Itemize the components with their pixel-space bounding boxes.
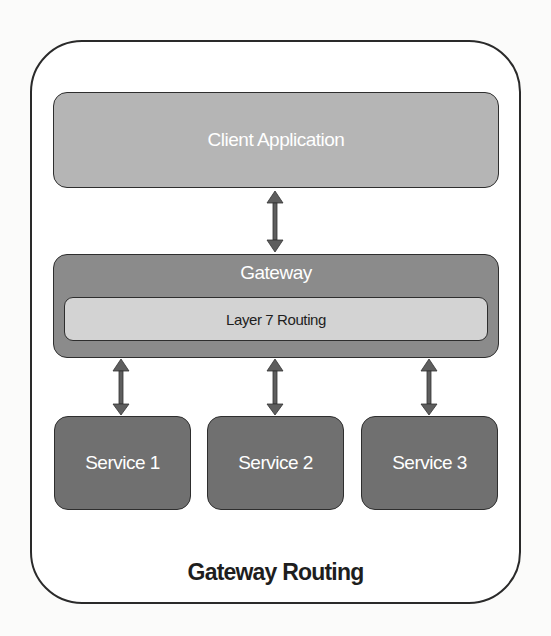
connection-arrows [0,0,551,636]
double-arrow-icon-service-3 [421,359,437,415]
double-arrow-icon-service-2 [267,359,283,415]
double-arrow-icon-service-1 [113,359,129,415]
diagram-title: Gateway Routing [30,559,521,586]
double-arrow-icon-client-gateway [267,191,283,252]
